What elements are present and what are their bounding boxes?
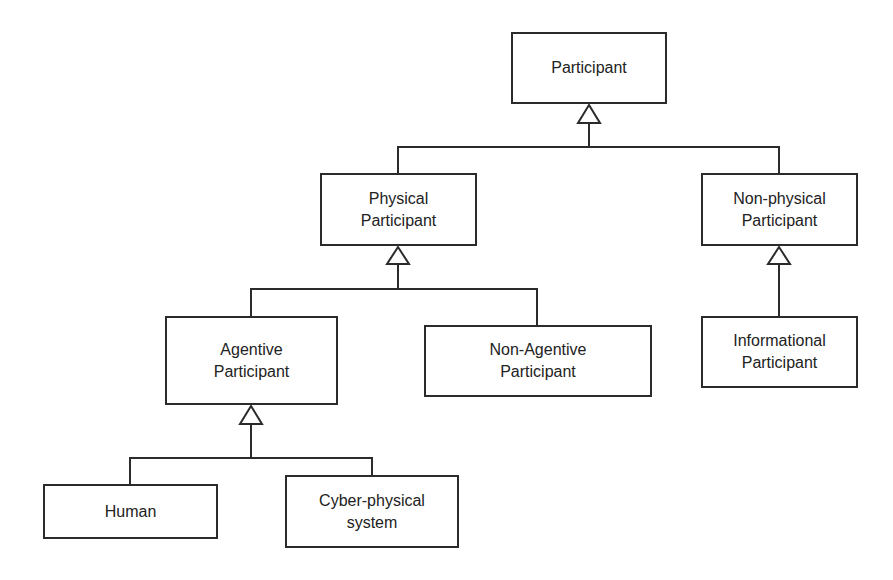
generalization-arrow-icon (578, 105, 600, 123)
node-physical-participant: Physical Participant (320, 173, 477, 246)
node-label: Agentive Participant (214, 339, 290, 383)
node-nonphysical-participant: Non-physical Participant (701, 173, 858, 246)
node-nonagentive-participant: Non-Agentive Participant (424, 325, 652, 397)
node-cyber-physical-system: Cyber-physical system (285, 475, 459, 548)
node-informational-participant: Informational Participant (701, 316, 858, 388)
node-label: Cyber-physical system (319, 490, 425, 534)
generalization-arrow-icon (387, 247, 409, 264)
node-label: Human (105, 501, 157, 523)
node-label: Physical Participant (361, 188, 437, 232)
node-agentive-participant: Agentive Participant (165, 316, 338, 405)
generalization-arrow-icon (240, 406, 262, 424)
node-label: Non-Agentive Participant (490, 339, 587, 383)
node-label: Participant (551, 57, 627, 79)
node-human: Human (43, 484, 218, 539)
generalization-arrow-icon (768, 247, 790, 264)
node-participant: Participant (511, 32, 667, 104)
node-label: Informational Participant (733, 330, 826, 374)
node-label: Non-physical Participant (733, 188, 825, 232)
